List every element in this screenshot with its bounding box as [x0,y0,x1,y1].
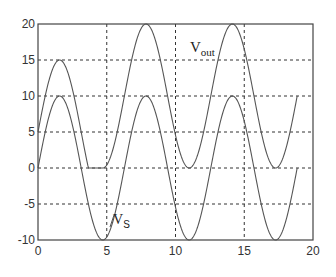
x-tick-label: 0 [35,244,42,258]
y-tick-label: 10 [22,89,36,103]
y-axis-ticks: -10-505101520 [18,17,36,247]
x-tick-label: 10 [169,244,183,258]
vs-annotation: VS [113,212,130,230]
vout-label-main: V [190,39,201,55]
y-tick-label: 20 [22,17,36,31]
vout-label-sub: out [201,46,215,58]
vs-label-main: V [113,212,123,227]
y-tick-label: 0 [28,161,35,175]
y-tick-label: -5 [24,197,35,211]
line-chart: -10-505101520 05101520 Vout VS [0,0,336,277]
x-tick-label: 15 [238,244,252,258]
x-tick-label: 5 [103,244,110,258]
vout-annotation: Vout [190,39,215,58]
x-tick-label: 20 [306,244,320,258]
y-tick-label: -10 [18,233,36,247]
y-tick-label: 15 [22,53,36,67]
y-tick-label: 5 [28,125,35,139]
vs-label-sub: S [123,219,130,230]
x-axis-ticks: 05101520 [35,244,320,258]
